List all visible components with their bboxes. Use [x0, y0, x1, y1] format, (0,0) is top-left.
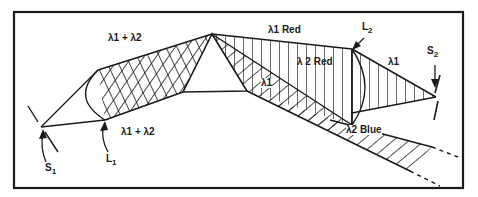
label-s1-sub: 1 — [52, 167, 56, 176]
label-l1: L1 — [106, 154, 117, 167]
label-lambda2-red: λ 2 Red — [297, 57, 333, 67]
label-combined-bottom: λ1 + λ2 — [121, 127, 155, 137]
label-lambda2-blue: λ2 Blue — [346, 125, 382, 135]
label-s2-sub: 2 — [434, 50, 438, 59]
optical-diagram — [0, 0, 478, 197]
label-l2-sub: 2 — [368, 26, 372, 35]
input-cone — [41, 70, 105, 127]
label-combined-top: λ1 + λ2 — [108, 33, 142, 43]
label-lambda1-red: λ1 Red — [268, 25, 301, 35]
label-s1: S1 — [45, 163, 56, 176]
label-s2-text: S — [427, 45, 434, 56]
label-s1-text: S — [45, 162, 52, 173]
label-s2: S2 — [427, 46, 438, 59]
arrow-l2 — [352, 38, 364, 50]
label-l2: L2 — [362, 22, 373, 35]
label-l1-sub: 1 — [112, 158, 116, 167]
label-lambda1-inner: λ1 — [261, 78, 272, 88]
label-lambda1-right: λ1 — [388, 57, 399, 67]
arrow-l1 — [100, 121, 108, 152]
